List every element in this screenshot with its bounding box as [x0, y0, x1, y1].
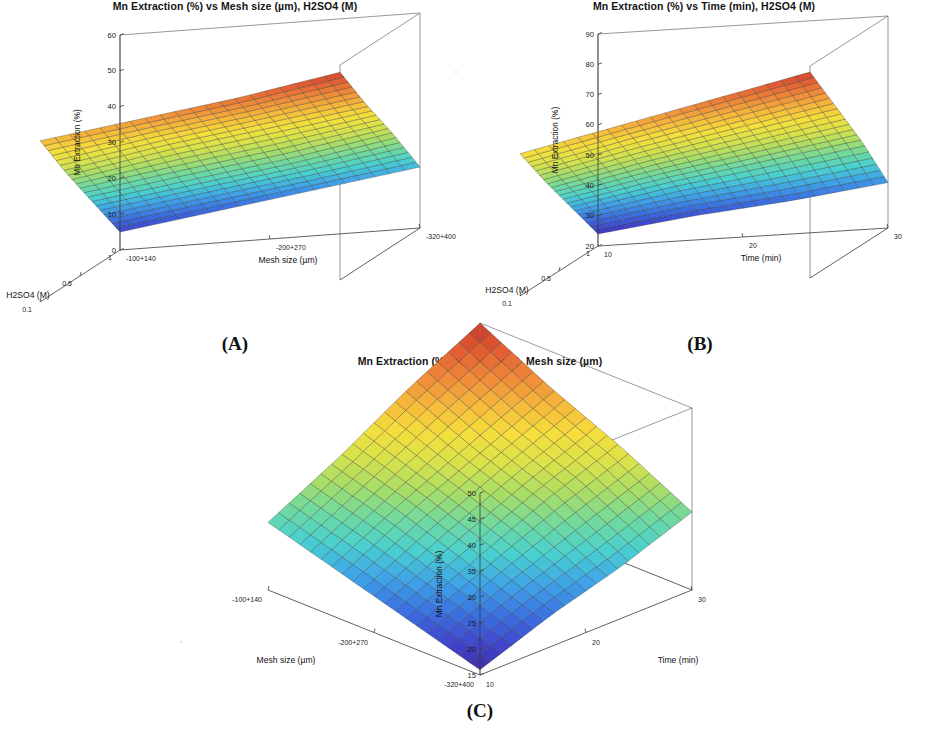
speck [180, 641, 182, 643]
z-axis-label: Mn Extraction (%) [434, 551, 444, 618]
x-tick-label: 1 [586, 250, 590, 257]
z-tick-label: 70 [586, 90, 594, 99]
x-tick-label: -200+270 [338, 639, 368, 646]
speck [455, 71, 457, 73]
y-axis-a: -100+140-200+270-320+400Mesh size (µm) [126, 224, 456, 265]
z-tick-label: 60 [108, 31, 116, 40]
panel-b-caption: (B) [650, 333, 750, 355]
y-axis-label: Time (min) [658, 655, 699, 665]
panel-c-caption: (C) [430, 700, 530, 722]
surface-plot-a: 0102030405060Mn Extraction (%)10.50.1H2S… [0, 18, 470, 328]
z-tick-label: 40 [108, 102, 116, 111]
y-tick-label: 20 [592, 639, 600, 646]
y-tick-label: 10 [604, 251, 612, 258]
y-tick-label: 30 [894, 233, 902, 240]
y-axis-label: Time (min) [741, 253, 782, 263]
x-axis-a: 10.50.1H2SO4 (M) [6, 254, 112, 313]
z-tick-label: 20 [108, 174, 116, 183]
z-tick-label: 20 [468, 645, 476, 654]
z-tick-label: 25 [468, 619, 476, 628]
z-tick-label: 0 [112, 246, 116, 255]
y-tick-label: 30 [698, 596, 706, 603]
x-tick-label: 1 [108, 254, 112, 261]
z-tick-label: 40 [586, 181, 594, 190]
surface-plot-c: 1520253035404550Mn Extraction (%)-320+40… [230, 375, 730, 705]
z-tick-label: 90 [586, 30, 594, 39]
y-axis-label: Mesh size (µm) [259, 255, 318, 265]
z-tick-label: 30 [108, 138, 116, 147]
z-tick-label: 30 [468, 593, 476, 602]
x-axis-label: H2SO4 (M) [6, 290, 50, 300]
panel-a-title: Mn Extraction (%) vs Mesh size (µm), H2S… [0, 0, 470, 12]
x-tick-label: 0.5 [62, 280, 72, 287]
z-tick-label: 50 [586, 151, 594, 160]
x-tick-label: 0.1 [502, 300, 512, 307]
y-tick-label: -320+400 [426, 233, 456, 240]
x-axis-b: 10.50.1H2SO4 (M) [485, 250, 590, 307]
z-tick-label: 50 [468, 489, 476, 498]
y-tick-label: 20 [749, 242, 757, 249]
z-tick-label: 45 [468, 515, 476, 524]
panel-a: Mn Extraction (%) vs Mesh size (µm), H2S… [0, 0, 470, 360]
z-axis-label: Mn Extraction (%) [550, 107, 560, 174]
panel-a-caption: (A) [185, 333, 285, 355]
surface-mesh-b [520, 72, 888, 234]
x-tick-label: 0.1 [22, 306, 32, 313]
z-tick-label: 60 [586, 120, 594, 129]
z-tick-label: 35 [468, 567, 476, 576]
x-tick-label: 0.5 [541, 275, 551, 282]
y-tick-label: -100+140 [126, 255, 156, 262]
z-tick-label: 10 [108, 210, 116, 219]
figure-root: Mn Extraction (%) vs Mesh size (µm), H2S… [0, 0, 938, 735]
panel-b: Mn Extraction (%) vs Time (min), H2SO4 (… [470, 0, 938, 360]
x-axis-label: H2SO4 (M) [485, 285, 529, 295]
panel-b-plot: 2030405060708090Mn Extraction (%)10.50.1… [470, 18, 938, 328]
z-tick-label: 30 [586, 211, 594, 220]
y-tick-label: -200+270 [276, 244, 306, 251]
panel-b-title: Mn Extraction (%) vs Time (min), H2SO4 (… [470, 0, 938, 12]
panel-c: Mn Extraction (%) vs Time (min), Mesh si… [230, 355, 730, 735]
panel-a-plot: 0102030405060Mn Extraction (%)10.50.1H2S… [0, 18, 470, 328]
z-tick-label: 15 [468, 671, 476, 680]
x-axis-label: Mesh size (µm) [257, 655, 316, 665]
z-tick-label: 50 [108, 66, 116, 75]
y-tick-label: 10 [486, 681, 494, 688]
panel-c-plot: 1520253035404550Mn Extraction (%)-320+40… [230, 375, 730, 705]
x-tick-label: -320+400 [444, 681, 474, 688]
z-tick-label: 40 [468, 541, 476, 550]
surface-plot-b: 2030405060708090Mn Extraction (%)10.50.1… [470, 18, 938, 328]
z-tick-label: 80 [586, 60, 594, 69]
x-tick-label: -100+140 [232, 596, 262, 603]
z-axis-label: Mn Extraction (%) [72, 109, 82, 176]
surface-mesh-a [40, 72, 420, 232]
